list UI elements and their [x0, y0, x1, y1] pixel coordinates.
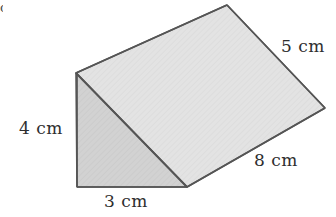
dimension-label-slant: 5 cm [281, 36, 325, 56]
dimension-label-base: 3 cm [104, 191, 148, 211]
dimension-label-depth: 8 cm [254, 150, 298, 170]
dimension-label-height: 4 cm [19, 118, 63, 138]
geometry-figure: c 4 cm 3 cm 5 cm 8 cm [0, 0, 336, 217]
triangular-prism-drawing [0, 0, 336, 217]
